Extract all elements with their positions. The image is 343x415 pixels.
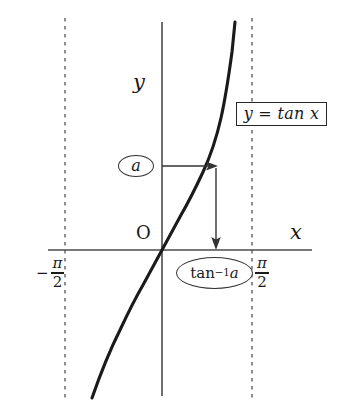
fraction-numerator: π — [255, 256, 269, 272]
y-axis-label: y — [133, 72, 145, 93]
x-axis-label: x — [290, 222, 302, 243]
fraction-denominator: 2 — [255, 274, 269, 290]
arctan-arg-text: a — [230, 266, 239, 281]
negative-sign: − — [36, 264, 49, 282]
tick-label-negative-half-pi: − π 2 — [36, 256, 64, 290]
value-a-text: a — [131, 158, 141, 174]
arctan-exponent-text: −1 — [215, 268, 230, 278]
tick-label-positive-half-pi: π 2 — [255, 256, 269, 290]
fraction-negative-half-pi: π 2 — [51, 256, 65, 290]
arctan-oval: tan−1a — [176, 257, 253, 289]
arctan-base-text: tan — [190, 266, 215, 281]
tangent-function-diagram: y x O y = tan x a tan−1a − π 2 π 2 — [0, 0, 343, 415]
fraction-numerator: π — [51, 256, 65, 272]
origin-label: O — [136, 224, 151, 242]
fraction-positive-half-pi: π 2 — [255, 256, 269, 290]
equation-box: y = tan x — [236, 102, 327, 126]
plot-canvas — [0, 0, 343, 415]
value-a-oval: a — [118, 155, 154, 177]
fraction-denominator: 2 — [51, 274, 65, 290]
tan-curve — [92, 22, 235, 398]
equation-text: y = tan x — [244, 106, 320, 122]
